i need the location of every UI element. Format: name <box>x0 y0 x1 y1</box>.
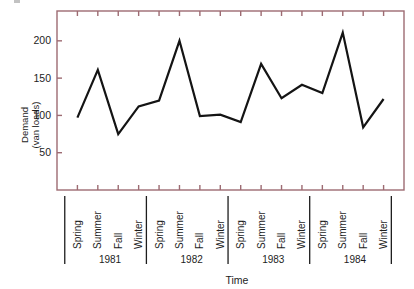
plot-frame <box>57 11 404 190</box>
x-axis-category-label: Spring <box>235 220 246 249</box>
year-group-label: 1982 <box>181 254 204 265</box>
year-group-label: 1981 <box>99 254 122 265</box>
chart-canvas: 50100150200 SpringSummerFallWinterSpring… <box>0 0 414 289</box>
x-axis-ticks <box>77 11 383 190</box>
x-axis-category-label: Winter <box>296 219 307 249</box>
x-axis-category-label: Spring <box>317 220 328 249</box>
year-group-label: 1983 <box>262 254 285 265</box>
x-axis-category-label: Spring <box>72 220 83 249</box>
x-axis-category-label: Fall <box>276 233 287 249</box>
y-axis-tick-label: 150 <box>33 72 51 84</box>
x-axis-category-label: Winter <box>133 219 144 249</box>
x-axis-category-label: Summer <box>256 211 267 249</box>
scan-artifact-mark <box>14 0 20 3</box>
x-axis-category-label: Summer <box>337 211 348 249</box>
demand-line-series <box>77 33 383 134</box>
y-axis-title-line2: (van loads) <box>30 102 41 149</box>
y-axis-title-line1: Demand <box>19 107 30 143</box>
x-axis-category-label: Winter <box>215 219 226 249</box>
demand-line <box>77 33 383 134</box>
x-axis-category-label: Fall <box>358 233 369 249</box>
year-group-label: 1984 <box>344 254 367 265</box>
x-axis-category-labels: SpringSummerFallWinterSpringSummerFallWi… <box>72 211 389 249</box>
x-axis-category-label: Spring <box>154 220 165 249</box>
y-axis-tick-label: 50 <box>39 146 51 158</box>
x-axis-category-label: Summer <box>174 211 185 249</box>
y-axis-tick-label: 200 <box>33 34 51 46</box>
plot-border <box>57 11 404 190</box>
x-axis-category-label: Winter <box>378 219 389 249</box>
x-axis-category-label: Summer <box>92 211 103 249</box>
x-axis-title: Time <box>226 274 249 286</box>
x-axis-category-label: Fall <box>113 233 124 249</box>
year-group-labels: 1981198219831984 <box>99 254 367 265</box>
demand-time-series-chart: 50100150200 SpringSummerFallWinterSpring… <box>0 0 414 289</box>
y-axis-ticks <box>57 41 62 153</box>
x-axis-category-label: Fall <box>194 233 205 249</box>
